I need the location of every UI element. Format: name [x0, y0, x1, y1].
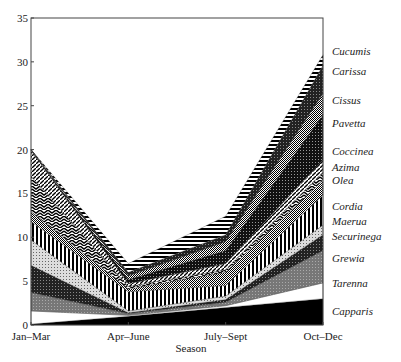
y-tick-label: 35: [17, 12, 29, 24]
y-tick-label: 10: [17, 231, 29, 243]
legend-label-carissa: Carissa: [332, 65, 367, 77]
legend-label-cordia: Cordia: [332, 200, 363, 212]
legend-label-coccinea: Coccinea: [332, 145, 374, 157]
y-tick-label: 5: [23, 275, 29, 287]
x-axis-title: Season: [175, 342, 207, 354]
legend-label-pavetta: Pavetta: [331, 117, 366, 129]
stacked-area-chart: 05101520253035 Jan–MarApr–JuneJuly–SeptO…: [0, 0, 401, 362]
legend-label-capparis: Capparis: [332, 305, 373, 317]
legend-label-securinega: Securinega: [332, 230, 382, 242]
y-tick-label: 30: [17, 56, 29, 68]
legend-label-cissus: Cissus: [332, 94, 361, 106]
y-tick-label: 20: [17, 144, 29, 156]
x-tick-label: Oct–Dec: [303, 330, 342, 342]
x-tick-label: Jan–Mar: [12, 330, 51, 342]
x-tick-label: Apr–June: [107, 330, 150, 342]
legend: CucumisCarissaCissusPavettaCoccineaAzima…: [331, 45, 382, 317]
legend-label-maerua: Maerua: [331, 215, 367, 227]
legend-label-cucumis: Cucumis: [332, 45, 371, 57]
legend-label-tarenna: Tarenna: [332, 277, 368, 289]
x-tick-label: July–Sept: [204, 330, 247, 342]
legend-label-grewia: Grewia: [332, 252, 365, 264]
plot-areas: [31, 55, 323, 325]
legend-label-olea: Olea: [332, 174, 354, 186]
y-tick-label: 25: [17, 100, 29, 112]
y-tick-label: 15: [17, 187, 29, 199]
legend-label-azima: Azima: [331, 161, 360, 173]
